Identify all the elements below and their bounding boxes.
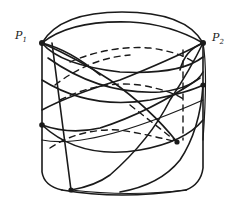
cylinder-diagram: P1 P2 <box>0 0 240 212</box>
line-left-diagonal <box>52 43 71 190</box>
point-left-mid <box>39 122 45 128</box>
point-right-mid <box>200 82 205 87</box>
curve-p1-upper <box>42 22 203 43</box>
curve-left-mid <box>42 78 200 131</box>
point-p1 <box>39 40 45 46</box>
label-p1-sub: 1 <box>22 36 26 44</box>
curve-left-lower <box>42 100 203 142</box>
point-back-end <box>174 139 179 144</box>
curve-front-band-1 <box>48 58 203 92</box>
label-p2: P2 <box>212 32 224 46</box>
label-p2-sub: 2 <box>219 38 223 46</box>
hidden-back-arc-3 <box>60 84 185 100</box>
point-p2 <box>200 40 206 46</box>
label-p1: P1 <box>15 30 27 44</box>
cylinder-drawing <box>0 0 240 212</box>
point-bottom-front <box>68 187 73 192</box>
top-rim-back <box>42 12 203 43</box>
curve-p1-front-1 <box>42 43 203 72</box>
hidden-diagonal <box>130 105 177 142</box>
